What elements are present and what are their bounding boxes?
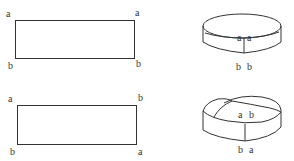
diagram-canvas [0, 0, 294, 161]
label-cyl-seam-top-left: a [237, 33, 241, 43]
label-mob-rect-top-left: a [8, 94, 12, 104]
cylinder-band [203, 14, 281, 53]
label-mob-rect-bottom-right: a [138, 147, 142, 157]
rectangle-mobius [18, 106, 137, 145]
rectangle-cylinder [16, 21, 135, 59]
label-cyl-rect-top-right: a [135, 8, 139, 18]
label-cyl-seam-top-right: a [247, 33, 251, 43]
label-cyl-seam-bottom-right: b [247, 62, 252, 72]
label-cyl-seam-bottom-left: b [236, 62, 241, 72]
label-cyl-rect-bottom-left: b [8, 61, 13, 71]
label-mob-seam-top-right: b [249, 110, 254, 120]
label-mob-rect-top-right: b [138, 93, 143, 103]
label-mob-rect-bottom-left: b [10, 147, 15, 157]
label-mob-seam-top-left: a [238, 110, 242, 120]
label-cyl-rect-bottom-right: b [136, 59, 141, 69]
label-mob-seam-bottom-right: a [249, 145, 253, 155]
label-cyl-rect-top-left: a [6, 9, 10, 19]
label-mob-seam-bottom-left: b [238, 145, 243, 155]
